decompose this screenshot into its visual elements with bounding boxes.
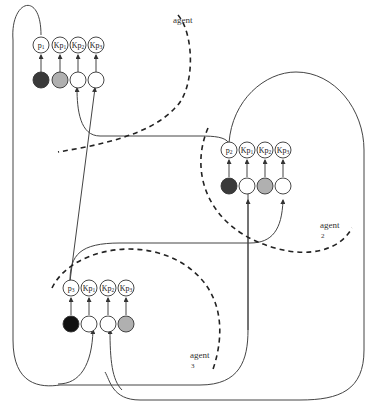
agent2-nodes: p2 Kp1 Kp2 Kp3 xyxy=(221,142,291,194)
agent2-state-kp3-white xyxy=(275,178,291,194)
edge-p2-to-agent1 xyxy=(77,88,229,143)
agent3-label: agent xyxy=(190,350,210,360)
edge-to-agent3-kp2 xyxy=(110,330,122,390)
agent3-state-kp2-white xyxy=(100,316,116,332)
agent2-label: agent xyxy=(320,220,340,230)
agent2-state-kp1-white xyxy=(239,178,255,194)
agent3-state-kp1-white xyxy=(81,316,97,332)
agent1-state-kp1-gray xyxy=(52,72,68,88)
edge-p3-to-agent1 xyxy=(70,88,95,281)
loop-p2-outer xyxy=(105,72,364,400)
agent1-state-kp2-white xyxy=(70,72,86,88)
agent1-state-kp3-white xyxy=(88,72,104,88)
agent3-nodes: p3 Kp1 Kp2 Kp3 xyxy=(63,280,134,332)
agent2-state-p2-dark xyxy=(221,178,237,194)
agent3-state-p3-black xyxy=(63,316,79,332)
multi-agent-knowledge-diagram: agent agent 2 agent 3 p1 Kp1 Kp2 Kp3 p2 … xyxy=(0,0,376,410)
agent3-state-kp3-gray xyxy=(118,316,134,332)
edge-p3-loop xyxy=(58,330,93,384)
agent1-nodes: p1 Kp1 Kp2 Kp3 xyxy=(33,37,104,88)
agent1-label-row: p1 Kp1 Kp2 Kp3 xyxy=(33,37,104,53)
agent2-state-kp2-gray xyxy=(257,178,273,194)
agent2-number: 2 xyxy=(321,232,325,240)
agent3-number: 3 xyxy=(191,362,195,370)
edge-p3-to-agent2 xyxy=(70,200,283,281)
agent1-state-p1-dark xyxy=(33,72,49,88)
agent1-label: agent xyxy=(173,15,193,25)
